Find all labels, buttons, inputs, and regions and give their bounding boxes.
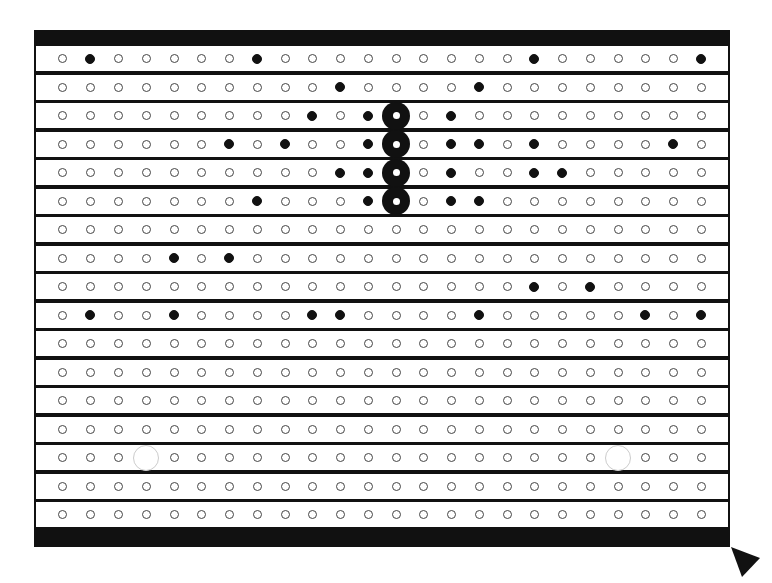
peg-hole[interactable] — [669, 225, 678, 234]
peg-hole[interactable] — [558, 339, 567, 348]
peg-hole[interactable] — [503, 197, 512, 206]
peg-hole[interactable] — [586, 168, 595, 177]
peg-hole[interactable] — [475, 482, 484, 491]
peg-hole[interactable] — [669, 282, 678, 291]
peg-hole[interactable] — [558, 254, 567, 263]
peg[interactable] — [446, 111, 456, 121]
peg-hole[interactable] — [308, 368, 317, 377]
peg-hole[interactable] — [447, 339, 456, 348]
peg-hole[interactable] — [86, 111, 95, 120]
peg-hole[interactable] — [697, 254, 706, 263]
peg-hole[interactable] — [86, 168, 95, 177]
peg-hole[interactable] — [114, 197, 123, 206]
peg-hole[interactable] — [364, 225, 373, 234]
peg-hole[interactable] — [392, 482, 401, 491]
peg-hole[interactable] — [503, 140, 512, 149]
peg-hole[interactable] — [641, 83, 650, 92]
peg-hole[interactable] — [170, 482, 179, 491]
peg-hole[interactable] — [114, 225, 123, 234]
peg-hole[interactable] — [447, 54, 456, 63]
peg-hole[interactable] — [364, 339, 373, 348]
peg-hole[interactable] — [58, 482, 67, 491]
peg-hole[interactable] — [419, 54, 428, 63]
peg-hole[interactable] — [503, 311, 512, 320]
peg-hole[interactable] — [392, 339, 401, 348]
peg-hole[interactable] — [114, 368, 123, 377]
peg-hole[interactable] — [503, 54, 512, 63]
peg-hole[interactable] — [697, 197, 706, 206]
peg-hole[interactable] — [475, 254, 484, 263]
peg-hole[interactable] — [475, 111, 484, 120]
peg[interactable] — [307, 111, 317, 121]
peg-hole[interactable] — [281, 83, 290, 92]
peg-hole[interactable] — [58, 168, 67, 177]
peg-hole[interactable] — [197, 453, 206, 462]
peg-hole[interactable] — [697, 168, 706, 177]
peg-hole[interactable] — [197, 197, 206, 206]
peg-hole[interactable] — [142, 311, 151, 320]
peg[interactable] — [224, 139, 234, 149]
peg-hole[interactable] — [530, 339, 539, 348]
peg-hole[interactable] — [558, 396, 567, 405]
peg-hole[interactable] — [364, 282, 373, 291]
large-peg[interactable] — [382, 102, 410, 130]
peg-hole[interactable] — [336, 254, 345, 263]
peg-hole[interactable] — [308, 339, 317, 348]
peg-hole[interactable] — [419, 396, 428, 405]
peg-hole[interactable] — [364, 83, 373, 92]
peg-hole[interactable] — [530, 368, 539, 377]
peg-hole[interactable] — [253, 396, 262, 405]
peg-hole[interactable] — [558, 83, 567, 92]
peg-hole[interactable] — [225, 168, 234, 177]
peg-hole[interactable] — [336, 425, 345, 434]
peg-hole[interactable] — [281, 396, 290, 405]
peg-hole[interactable] — [142, 254, 151, 263]
peg-hole[interactable] — [614, 168, 623, 177]
peg-hole[interactable] — [308, 54, 317, 63]
peg-hole[interactable] — [142, 425, 151, 434]
peg-hole[interactable] — [475, 54, 484, 63]
peg-hole[interactable] — [114, 396, 123, 405]
peg-hole[interactable] — [142, 339, 151, 348]
peg-hole[interactable] — [419, 482, 428, 491]
peg-hole[interactable] — [253, 425, 262, 434]
peg-hole[interactable] — [225, 339, 234, 348]
peg-hole[interactable] — [447, 254, 456, 263]
peg-hole[interactable] — [447, 482, 456, 491]
peg-hole[interactable] — [669, 197, 678, 206]
peg-hole[interactable] — [697, 510, 706, 519]
peg-hole[interactable] — [253, 339, 262, 348]
peg-hole[interactable] — [641, 425, 650, 434]
peg-hole[interactable] — [336, 140, 345, 149]
peg[interactable] — [474, 196, 484, 206]
peg-hole[interactable] — [308, 425, 317, 434]
peg-hole[interactable] — [614, 510, 623, 519]
peg-hole[interactable] — [170, 83, 179, 92]
peg-hole[interactable] — [308, 197, 317, 206]
peg-hole[interactable] — [641, 368, 650, 377]
peg-hole[interactable] — [697, 282, 706, 291]
peg-hole[interactable] — [503, 111, 512, 120]
peg-hole[interactable] — [225, 453, 234, 462]
peg-hole[interactable] — [336, 197, 345, 206]
peg-hole[interactable] — [614, 225, 623, 234]
peg-hole[interactable] — [253, 368, 262, 377]
peg-hole[interactable] — [697, 453, 706, 462]
peg-hole[interactable] — [86, 339, 95, 348]
peg-hole[interactable] — [142, 482, 151, 491]
peg-hole[interactable] — [253, 83, 262, 92]
peg-hole[interactable] — [86, 396, 95, 405]
peg-hole[interactable] — [586, 510, 595, 519]
peg-hole[interactable] — [530, 311, 539, 320]
peg-hole[interactable] — [503, 396, 512, 405]
peg-hole[interactable] — [586, 225, 595, 234]
peg-hole[interactable] — [669, 396, 678, 405]
peg-hole[interactable] — [697, 482, 706, 491]
peg-hole[interactable] — [114, 482, 123, 491]
peg-hole[interactable] — [197, 83, 206, 92]
peg-hole[interactable] — [142, 510, 151, 519]
peg-hole[interactable] — [419, 83, 428, 92]
peg-hole[interactable] — [503, 482, 512, 491]
peg-hole[interactable] — [447, 83, 456, 92]
peg-hole[interactable] — [308, 453, 317, 462]
